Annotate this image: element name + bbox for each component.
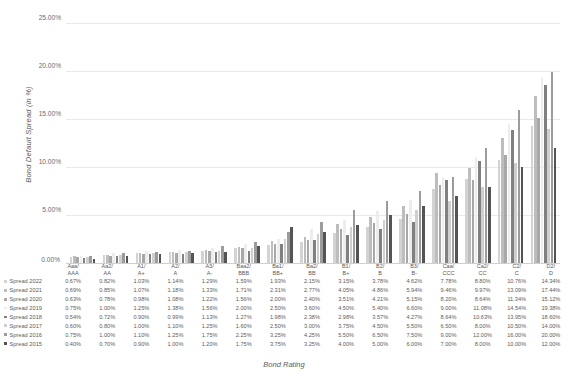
bar — [455, 196, 458, 263]
bar — [402, 206, 405, 263]
legend-entry[interactable]: Spread 2022 — [0, 277, 56, 286]
table-cell: 3.15% — [329, 277, 363, 286]
bar — [346, 235, 349, 263]
bar — [300, 242, 303, 263]
table-cell: 6.50% — [363, 331, 397, 340]
table-cell: 2.31% — [261, 286, 295, 295]
bar-group — [527, 24, 560, 263]
table-cell: 0.90% — [124, 313, 158, 322]
bar — [534, 96, 537, 263]
table-cell: 1.22% — [193, 295, 227, 304]
y-tick-label: 15.00% — [39, 110, 61, 117]
bar — [415, 210, 418, 263]
table-cell: 0.54% — [56, 313, 90, 322]
table-cell: 0.99% — [158, 313, 192, 322]
table-row: Spread 20220.67%0.82%1.03%1.14%1.29%1.59… — [0, 277, 568, 286]
table-cell: 8.00% — [466, 340, 500, 349]
legend-entry[interactable]: Spread 2019 — [0, 304, 56, 313]
bar-group — [461, 24, 494, 263]
bar — [383, 220, 386, 263]
table-cell: 1.03% — [124, 277, 158, 286]
bar — [445, 180, 448, 263]
category-header: Caa/CCC — [431, 262, 465, 277]
bar — [518, 110, 521, 263]
table-cell: 2.77% — [295, 286, 329, 295]
table-cell: 0.85% — [90, 286, 124, 295]
bar — [353, 210, 356, 263]
table-cell: 0.80% — [90, 322, 124, 331]
legend-header — [0, 262, 56, 277]
bar — [389, 215, 392, 263]
table-cell: 8.64% — [466, 295, 500, 304]
table-cell: 7.00% — [431, 340, 465, 349]
legend-entry[interactable]: Spread 2017 — [0, 322, 56, 331]
table-cell: 1.38% — [158, 304, 192, 313]
table-cell: 3.60% — [295, 304, 329, 313]
bar — [274, 244, 277, 263]
bar — [452, 177, 455, 263]
bar — [541, 78, 544, 263]
bar — [287, 232, 290, 263]
bar-group — [198, 24, 231, 263]
table-cell: 8.64% — [431, 313, 465, 322]
bar — [379, 229, 382, 263]
bar — [468, 168, 471, 263]
y-tick-label: 25.00% — [39, 14, 61, 21]
table-cell: 1.71% — [227, 286, 261, 295]
legend-entry[interactable]: Spread 2021 — [0, 286, 56, 295]
table-cell: 2.38% — [295, 313, 329, 322]
y-tick-label: 20.00% — [39, 62, 61, 69]
legend-entry[interactable]: Spread 2020 — [0, 295, 56, 304]
bar-group — [362, 24, 395, 263]
data-table: 0.00% Aaa/AAAAa2/AAA1/A+A2/AA3/A-Baa2/BB… — [0, 262, 568, 348]
table-cell: 4.21% — [363, 295, 397, 304]
table-row: Spread 20150.40%0.70%0.90%1.00%1.20%1.75… — [0, 340, 568, 349]
bar — [442, 177, 445, 263]
y-tick-label: 10.00% — [39, 158, 61, 165]
table-cell: 3.25% — [295, 340, 329, 349]
table-cell: 0.90% — [124, 340, 158, 349]
table-cell: 1.00% — [90, 331, 124, 340]
bar — [340, 229, 343, 263]
table-cell: 2.40% — [295, 295, 329, 304]
bar — [554, 148, 557, 263]
table-cell: 10.00% — [500, 340, 534, 349]
bar — [501, 138, 504, 263]
bar — [488, 187, 491, 263]
x-axis-title: Bond Rating — [0, 360, 568, 369]
table-row: Spread 20180.54%0.72%0.90%0.99%1.13%1.27… — [0, 313, 568, 322]
bar — [472, 180, 475, 263]
table-cell: 0.75% — [56, 331, 90, 340]
table-cell: 5.50% — [397, 322, 431, 331]
table-cell: 16.00% — [500, 331, 534, 340]
legend-entry[interactable]: Spread 2016 — [0, 331, 56, 340]
table-cell: 1.75% — [227, 340, 261, 349]
bar — [465, 179, 468, 263]
legend-entry[interactable]: Spread 2015 — [0, 340, 56, 349]
bond-default-spread-chart: Bond Default Spread (in %) 5.00%10.00%15… — [0, 0, 568, 384]
table-cell: 5.94% — [397, 286, 431, 295]
table-cell: 3.78% — [363, 277, 397, 286]
legend-label: Spread 2021 — [9, 287, 42, 293]
table-cell: 4.50% — [363, 322, 397, 331]
bar — [290, 227, 293, 263]
table-cell: 1.29% — [193, 277, 227, 286]
table-cell: 8.20% — [431, 295, 465, 304]
bar — [537, 118, 540, 263]
table-cell: 10.50% — [500, 322, 534, 331]
bar — [376, 211, 379, 263]
table-cell: 0.63% — [56, 295, 90, 304]
bar — [323, 232, 326, 263]
spread-table: Aaa/AAAAa2/AAA1/A+A2/AA3/A-Baa2/BBBBa1/B… — [0, 262, 568, 348]
table-cell: 20.00% — [534, 331, 568, 340]
table-cell: 7.78% — [431, 277, 465, 286]
bar — [211, 248, 214, 263]
table-cell: 12.00% — [466, 331, 500, 340]
legend-swatch-icon — [4, 333, 7, 336]
table-cell: 5.15% — [397, 295, 431, 304]
bar — [304, 237, 307, 263]
legend-label: Spread 2016 — [9, 332, 42, 338]
bar — [432, 189, 435, 263]
legend-entry[interactable]: Spread 2018 — [0, 313, 56, 322]
bar — [277, 239, 280, 263]
